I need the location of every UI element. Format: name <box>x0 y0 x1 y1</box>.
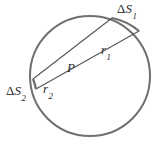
chord-line-lower <box>36 31 139 89</box>
subscript-1: 1 <box>132 11 136 21</box>
figure-canvas <box>0 0 166 150</box>
s-glyph-2: S <box>14 83 21 98</box>
label-delta-s2: ΔS2 <box>6 84 25 100</box>
label-delta-s1: ΔS1 <box>117 2 136 18</box>
r-glyph-2: r <box>43 81 48 96</box>
label-point-p: P <box>67 61 75 74</box>
circle-outline <box>30 16 150 136</box>
r-glyph-1: r <box>101 42 106 57</box>
s-glyph-1: S <box>125 1 132 16</box>
subscript-2: 2 <box>21 93 25 103</box>
geometry-figure: ΔS1 ΔS2 r1 r2 P <box>0 0 166 150</box>
label-r2: r2 <box>43 82 52 98</box>
arc-segment-delta-s2 <box>33 79 36 89</box>
r1-subscript: 1 <box>107 52 111 62</box>
r2-subscript: 2 <box>49 91 53 101</box>
label-r1: r1 <box>101 43 110 59</box>
